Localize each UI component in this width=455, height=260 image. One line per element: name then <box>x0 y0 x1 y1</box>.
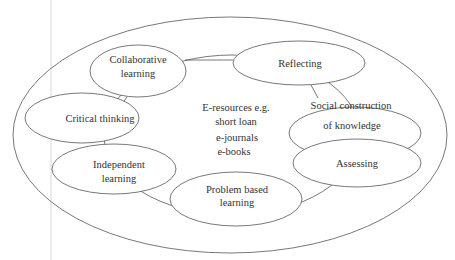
label-independent: learning <box>102 173 137 184</box>
label-assessing: Assessing <box>336 158 379 169</box>
learning-diagram: E-resources e.g. short loan e-journals e… <box>0 0 455 260</box>
label-collaborative: learning <box>121 68 156 79</box>
label-social-construction: Social construction <box>311 100 393 111</box>
label-critical-thinking: Critical thinking <box>65 113 135 124</box>
label-reflecting: Reflecting <box>278 58 322 69</box>
label-problem-based: Problem based <box>206 184 269 195</box>
center-text-line: e-books <box>217 146 250 157</box>
center-text-line: e-journals <box>216 132 258 143</box>
label-social-construction: of knowledge <box>323 120 381 131</box>
label-collaborative: Collaborative <box>109 54 166 65</box>
label-problem-based: learning <box>220 197 255 208</box>
label-independent: Independent <box>93 159 145 170</box>
connector <box>311 85 318 98</box>
center-text-line: E-resources e.g. <box>202 102 269 113</box>
center-text-line: short loan <box>215 116 257 127</box>
